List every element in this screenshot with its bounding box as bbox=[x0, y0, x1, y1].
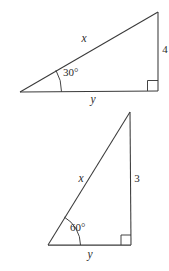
upper-right-angle-marker bbox=[148, 81, 159, 92]
upper-right-triangle: x y 4 30° bbox=[20, 12, 168, 106]
lower-hypotenuse-label: x bbox=[77, 172, 84, 184]
upper-vertical-label: 4 bbox=[162, 43, 168, 55]
lower-vertical-leg-line bbox=[130, 112, 131, 245]
upper-base-line bbox=[20, 91, 158, 92]
triangles-figure: x y 4 30° x y 3 60° bbox=[0, 0, 169, 271]
lower-angle-label: 60° bbox=[70, 221, 85, 233]
upper-angle-label: 30° bbox=[63, 66, 78, 78]
upper-angle-arc bbox=[56, 70, 62, 92]
lower-right-triangle: x y 3 60° bbox=[48, 112, 140, 261]
upper-hypotenuse-line bbox=[20, 12, 158, 92]
lower-hypotenuse-line bbox=[48, 112, 130, 245]
lower-vertical-label: 3 bbox=[134, 172, 140, 184]
upper-base-label: y bbox=[89, 93, 96, 106]
figure-root: x y 4 30° x y 3 60° bbox=[0, 0, 169, 271]
upper-hypotenuse-label: x bbox=[80, 32, 87, 44]
lower-right-angle-marker bbox=[121, 235, 131, 245]
lower-base-label: y bbox=[86, 248, 93, 261]
